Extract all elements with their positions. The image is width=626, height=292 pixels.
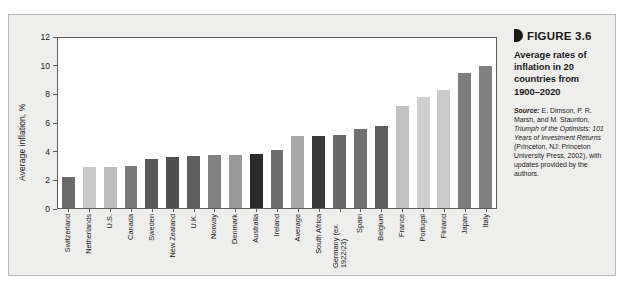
x-label-slot: Spain: [350, 214, 371, 272]
x-tick-mark: [413, 208, 434, 213]
x-label-slot: Belgium: [371, 214, 392, 272]
x-tick-mark: [100, 208, 121, 213]
x-tick-mark: [162, 208, 183, 213]
x-tick-mark: [141, 208, 162, 213]
bar: [396, 106, 409, 208]
x-tick-label: South Africa: [315, 214, 323, 254]
bar: [104, 167, 117, 208]
bar: [479, 66, 492, 208]
source-publisher: (Princeton, NJ: Princeton University Pre…: [514, 143, 601, 177]
x-tick-mark: [433, 208, 454, 213]
x-tick-label: U.S.: [106, 214, 114, 228]
x-tick-mark: [79, 208, 100, 213]
bar: [187, 156, 200, 208]
bar: [125, 166, 138, 209]
x-label-slot: Germany (ex. 1922/23): [329, 214, 350, 272]
x-tick-mark: [121, 208, 142, 213]
y-tick-mark: [53, 151, 57, 152]
x-label-slot: Netherlands: [79, 214, 100, 272]
x-tick-label: Netherlands: [85, 214, 93, 254]
bar-slot: [350, 38, 371, 208]
figure-title: Average rates of inflation in 20 countri…: [514, 49, 605, 98]
bar-slot: [287, 38, 308, 208]
x-tick-label: Japan: [461, 214, 469, 234]
bar-slot: [475, 38, 496, 208]
x-tick-mark: [350, 208, 371, 213]
x-tick-label: Average: [294, 214, 302, 241]
bar-slot: [433, 38, 454, 208]
y-tick-mark: [53, 94, 57, 95]
bar-slot: [392, 38, 413, 208]
bar-series: [58, 38, 496, 208]
x-label-slot: Ireland: [267, 214, 288, 272]
x-tick-mark: [371, 208, 392, 213]
figure-source-note: Source: E. Dimson, P. R. Marsh, and M. S…: [514, 106, 605, 179]
x-label-slot: Portugal: [413, 214, 434, 272]
bar: [166, 157, 179, 208]
caption-panel: FIGURE 3.6 Average rates of inflation in…: [514, 15, 615, 275]
y-axis-ticks: 024681012: [9, 37, 57, 209]
bar-slot: [79, 38, 100, 208]
bar-slot: [204, 38, 225, 208]
x-label-slot: France: [392, 214, 413, 272]
figure-heading: FIGURE 3.6: [514, 29, 605, 42]
x-tick-label: Denmark: [231, 214, 239, 244]
bar: [437, 90, 450, 208]
bar: [208, 155, 221, 208]
x-tick-label: Spain: [356, 214, 364, 233]
bar: [83, 167, 96, 208]
y-tick-mark: [53, 37, 57, 38]
figure-panel: Average inflation, % 024681012 Switzerla…: [8, 14, 616, 276]
x-tick-label: Australia: [252, 214, 260, 243]
x-tick-label: Belgium: [377, 214, 385, 241]
x-tick-mark: [287, 208, 308, 213]
x-label-slot: U.S.: [100, 214, 121, 272]
source-work-title: Triumph of the Optimists: 101 Years of I…: [514, 125, 604, 141]
x-tick-mark: [475, 208, 496, 213]
y-tick-label: 4: [45, 146, 50, 158]
x-tick-mark: [308, 208, 329, 213]
x-label-slot: Sweden: [141, 214, 162, 272]
x-tick-label: Finland: [440, 214, 448, 238]
x-label-slot: Japan: [454, 214, 475, 272]
bar-slot: [141, 38, 162, 208]
y-tick-label: 12: [41, 31, 50, 43]
x-tick-mark: [183, 208, 204, 213]
x-tick-label: New Zealand: [169, 214, 177, 258]
x-tick-label: Sweden: [148, 214, 156, 241]
x-tick-label: Ireland: [273, 214, 281, 237]
x-tick-label: Germany (ex. 1922/23): [331, 214, 347, 268]
y-tick-mark: [53, 180, 57, 181]
bar-slot: [371, 38, 392, 208]
bar-slot: [183, 38, 204, 208]
bar: [62, 177, 75, 208]
x-tick-label: Switzerland: [64, 214, 72, 252]
bar: [458, 73, 471, 208]
y-tick-label: 2: [45, 174, 50, 186]
bar-slot: [58, 38, 79, 208]
figure-number: FIGURE 3.6: [527, 30, 592, 42]
x-axis-ticks: [58, 208, 496, 213]
source-label: Source:: [514, 107, 540, 114]
x-tick-mark: [454, 208, 475, 213]
x-label-slot: Average: [287, 214, 308, 272]
x-axis-labels: SwitzerlandNetherlandsU.S.CanadaSwedenNe…: [58, 214, 496, 272]
x-tick-mark: [58, 208, 79, 213]
x-tick-mark: [246, 208, 267, 213]
bar: [229, 155, 242, 208]
x-label-slot: Finland: [433, 214, 454, 272]
bar: [417, 97, 430, 208]
y-tick-label: 8: [45, 88, 50, 100]
x-tick-label: Norway: [210, 214, 218, 239]
y-tick-mark: [53, 209, 57, 210]
x-tick-mark: [204, 208, 225, 213]
bar: [291, 136, 304, 208]
x-tick-label: Canada: [127, 214, 135, 240]
x-label-slot: New Zealand: [162, 214, 183, 272]
x-label-slot: South Africa: [308, 214, 329, 272]
bar: [271, 150, 284, 208]
x-tick-mark: [329, 208, 350, 213]
x-label-slot: Canada: [121, 214, 142, 272]
bar-slot: [329, 38, 350, 208]
figure-bullet-icon: [514, 29, 523, 42]
